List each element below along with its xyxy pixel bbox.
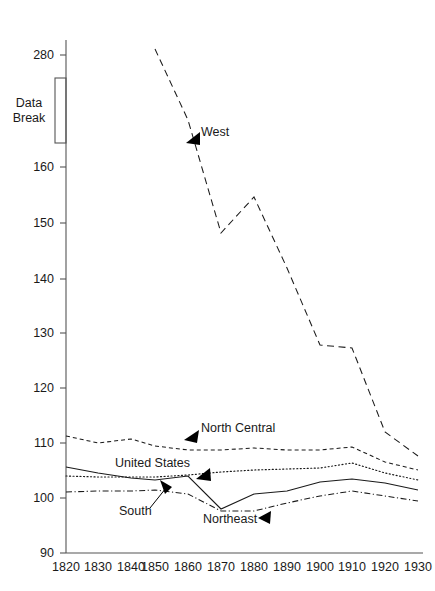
series-line-west: [155, 49, 418, 456]
y-tick-label-150: 150: [8, 216, 54, 230]
chart-canvas: [0, 0, 435, 591]
data-break-bracket: [55, 78, 66, 143]
series-label-west: West: [201, 125, 229, 139]
x-tick-label-1930: 1930: [393, 560, 435, 574]
y-tick-label-280: 280: [8, 48, 54, 62]
data-break-label-line2: Break: [5, 111, 53, 125]
series-label-northeast: Northeast: [203, 512, 257, 526]
data-break-label-line1: Data: [5, 96, 53, 110]
series-line-south: [66, 467, 418, 509]
line-chart: 280 160 150 140 130 120 110 100 90 Data …: [0, 0, 435, 591]
y-tick-label-140: 140: [8, 272, 54, 286]
y-tick-label-130: 130: [8, 326, 54, 340]
y-tick-label-120: 120: [8, 381, 54, 395]
series-label-united-states: United States: [115, 456, 190, 470]
y-tick-label-110: 110: [8, 436, 54, 450]
arrow-south-leader: [150, 488, 166, 508]
y-tick-marks: [60, 55, 66, 553]
arrow-northeast: [258, 511, 271, 524]
series-label-north-central: North Central: [201, 421, 275, 435]
arrow-united-states: [196, 468, 211, 481]
y-tick-label-100: 100: [8, 491, 54, 505]
series-label-south: South: [119, 504, 152, 518]
arrow-south: [160, 480, 172, 494]
arrow-west: [186, 132, 200, 145]
y-tick-label-90: 90: [8, 546, 54, 560]
arrow-north-central: [184, 430, 199, 443]
y-tick-label-160: 160: [8, 160, 54, 174]
